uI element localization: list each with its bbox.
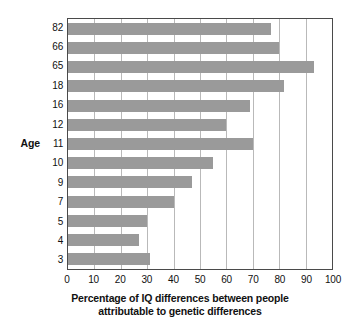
y-axis-tick-label: 82 xyxy=(40,18,64,37)
y-axis-tick-label: 5 xyxy=(40,212,64,231)
y-axis-title: Age xyxy=(6,137,40,149)
y-axis-tick-label: 4 xyxy=(40,231,64,250)
bar-row xyxy=(68,250,332,269)
bar xyxy=(68,23,271,35)
bar-row xyxy=(68,154,332,173)
bar xyxy=(68,61,314,73)
x-axis-tick-label: 100 xyxy=(325,273,341,287)
y-axis-tick-label: 7 xyxy=(40,193,64,212)
bar-row xyxy=(68,19,332,38)
bar xyxy=(68,215,147,227)
x-axis-tick-label: 10 xyxy=(88,273,99,287)
bar xyxy=(68,119,226,131)
y-axis-tick-label: 12 xyxy=(40,115,64,134)
x-axis-tick-label: 80 xyxy=(274,273,285,287)
bar-row xyxy=(68,231,332,250)
plot-area xyxy=(67,18,333,270)
y-axis-tick-label: 11 xyxy=(40,134,64,153)
y-axis-tick-labels: 826665181612111097543 xyxy=(40,18,64,270)
x-axis-tick-label: 70 xyxy=(248,273,259,287)
bar xyxy=(68,157,213,169)
bar xyxy=(68,138,253,150)
bar xyxy=(68,253,150,265)
x-axis-tick-label: 20 xyxy=(115,273,126,287)
x-axis-tick-label: 90 xyxy=(301,273,312,287)
y-axis-tick-label: 10 xyxy=(40,154,64,173)
y-axis-tick-label: 3 xyxy=(40,251,64,270)
bar xyxy=(68,234,139,246)
y-axis-tick-label: 65 xyxy=(40,57,64,76)
x-axis-title-line-2: attributable to genetic differences xyxy=(0,305,360,318)
bar-series xyxy=(68,19,332,269)
bar xyxy=(68,80,284,92)
x-axis-tick-label: 0 xyxy=(64,273,69,287)
bar-row xyxy=(68,77,332,96)
bar-row xyxy=(68,57,332,76)
bar xyxy=(68,100,250,112)
x-axis-tick-labels: 0102030405060708090100 xyxy=(67,273,333,287)
bar-row xyxy=(68,192,332,211)
y-axis-tick-label: 18 xyxy=(40,76,64,95)
x-axis-tick-label: 40 xyxy=(168,273,179,287)
x-axis-title: Percentage of IQ differences between peo… xyxy=(0,292,360,318)
x-axis-tick-label: 50 xyxy=(195,273,206,287)
x-axis-title-line-1: Percentage of IQ differences between peo… xyxy=(71,292,289,304)
x-axis-tick-label: 60 xyxy=(221,273,232,287)
bar-chart: Age 826665181612111097543 01020304050607… xyxy=(0,0,360,321)
bar-row xyxy=(68,96,332,115)
bar-row xyxy=(68,115,332,134)
bar xyxy=(68,196,174,208)
bar-row xyxy=(68,134,332,153)
y-axis-tick-label: 9 xyxy=(40,173,64,192)
x-axis-tick-label: 30 xyxy=(141,273,152,287)
bar xyxy=(68,42,279,54)
bar-row xyxy=(68,38,332,57)
bar xyxy=(68,176,192,188)
y-axis-tick-label: 16 xyxy=(40,96,64,115)
y-axis-tick-label: 66 xyxy=(40,37,64,56)
bar-row xyxy=(68,173,332,192)
bar-row xyxy=(68,211,332,230)
